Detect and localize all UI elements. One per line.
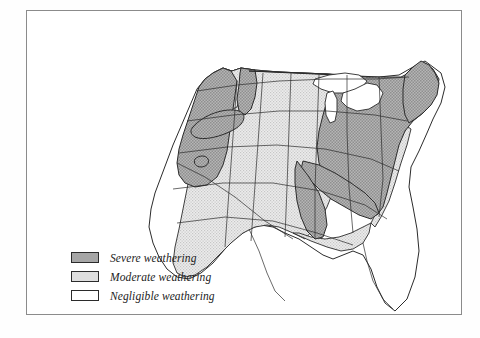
- legend-row-moderate: Moderate weathering: [71, 267, 215, 286]
- legend: Severe weathering Moderate weathering Ne…: [71, 248, 215, 305]
- figure-page: Severe weathering Moderate weathering Ne…: [0, 0, 480, 338]
- legend-label-negligible: Negligible weathering: [110, 290, 215, 302]
- severe-swatch: [71, 252, 99, 263]
- legend-row-severe: Severe weathering: [71, 248, 215, 267]
- legend-label-moderate: Moderate weathering: [110, 271, 211, 283]
- legend-label-severe: Severe weathering: [110, 252, 197, 264]
- region-severe-small-patch: [194, 156, 208, 167]
- state-border-texas: [249, 229, 285, 301]
- negligible-swatch: [71, 290, 99, 301]
- legend-row-negligible: Negligible weathering: [71, 286, 215, 305]
- moderate-swatch: [71, 271, 99, 282]
- figure-frame: Severe weathering Moderate weathering Ne…: [26, 10, 462, 315]
